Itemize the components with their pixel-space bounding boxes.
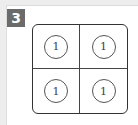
grid-cell[interactable]: 1 [80,25,127,69]
grid-cell[interactable]: 1 [80,69,127,113]
circled-number: 1 [44,79,68,103]
grid-cell[interactable]: 1 [33,25,80,69]
circled-number: 1 [92,35,116,59]
puzzle-grid: 1 1 1 1 [32,24,128,114]
circled-number: 1 [44,35,68,59]
puzzle-number-badge: 3 [7,9,25,27]
circled-number: 1 [92,79,116,103]
grid-cell[interactable]: 1 [33,69,80,113]
